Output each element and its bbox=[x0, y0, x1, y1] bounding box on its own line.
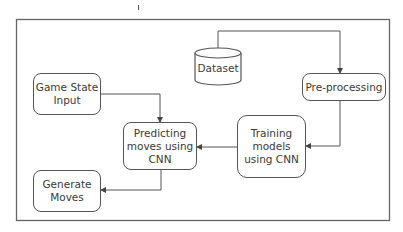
dataset-node: Dataset bbox=[195, 62, 241, 74]
edge-preprocessing-training bbox=[306, 101, 340, 146]
preprocessing-node: Pre-processing bbox=[302, 73, 386, 101]
predicting-moves-node: Predicting moves using CNN bbox=[123, 122, 197, 170]
edge-predicting-generate bbox=[101, 170, 161, 190]
flow-diagram: Dataset Pre-processing Game State Input … bbox=[0, 0, 403, 232]
game-state-input-node: Game State Input bbox=[33, 73, 101, 115]
generate-moves-node: Generate Moves bbox=[33, 170, 101, 212]
edge-gamestate-predicting bbox=[101, 94, 160, 122]
training-models-node: Training models using CNN bbox=[237, 115, 306, 178]
